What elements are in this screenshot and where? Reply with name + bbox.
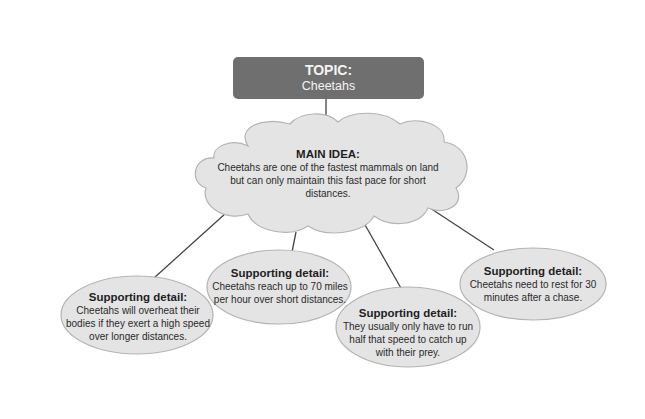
supporting-detail-label: Supporting detail: [64,290,212,304]
topic-value: Cheetahs [233,78,424,94]
connector-main-detail-3 [360,216,402,290]
connector-main-detail-2 [292,232,296,252]
supporting-detail-label: Supporting detail: [462,264,604,278]
supporting-detail-text: Cheetahs will overheat their bodies if t… [64,304,212,343]
supporting-detail-label: Supporting detail: [340,306,476,320]
topic-label: TOPIC: [233,62,424,78]
supporting-detail-1: Supporting detail: Cheetahs will overhea… [64,290,212,343]
main-idea-label: MAIN IDEA: [210,147,446,161]
supporting-detail-4: Supporting detail: Cheetahs need to rest… [462,264,604,304]
supporting-detail-2: Supporting detail: Cheetahs reach up to … [210,266,350,306]
supporting-detail-text: Cheetahs reach up to 70 miles per hour o… [210,280,350,306]
supporting-detail-3: Supporting detail: They usually only hav… [340,306,476,359]
main-idea: MAIN IDEA: Cheetahs are one of the faste… [210,147,446,200]
supporting-detail-text: Cheetahs need to rest for 30 minutes aft… [462,278,604,304]
main-idea-text: Cheetahs are one of the fastest mammals … [210,161,446,200]
supporting-detail-label: Supporting detail: [210,266,350,280]
topic-box: TOPIC: Cheetahs [233,57,424,99]
supporting-detail-text: They usually only have to run half that … [340,320,476,359]
connector-main-detail-4 [430,208,494,250]
